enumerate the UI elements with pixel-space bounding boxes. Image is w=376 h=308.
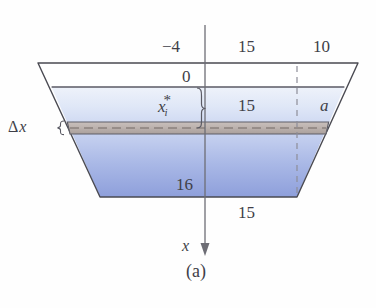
label-top-left-depth: −4 — [162, 38, 180, 55]
delta-symbol: Δ — [8, 118, 18, 135]
label-side-segment-a: a — [320, 97, 329, 114]
figure-caption: (a) — [186, 262, 206, 280]
label-xi-star: xi* — [158, 93, 171, 118]
xi-star-superscript: * — [164, 92, 172, 108]
label-delta-x: Δx — [8, 119, 26, 135]
delta-x-brace — [58, 121, 65, 135]
delta-x-variable: x — [19, 118, 26, 135]
water-region — [52, 87, 345, 197]
label-x-axis: x — [182, 238, 189, 254]
label-water-surface-zero: 0 — [182, 68, 191, 85]
air-region — [38, 63, 358, 87]
label-top-slant: 10 — [313, 38, 330, 55]
label-mid-half-width: 15 — [238, 97, 255, 114]
fluid-pressure-trapezoid-figure: −4 15 10 0 15 a 16 15 x (a) xi* Δx — [0, 0, 376, 308]
label-bottom-half-width: 15 — [238, 204, 255, 221]
label-top-half-width: 15 — [238, 38, 255, 55]
label-bottom-depth: 16 — [176, 176, 193, 193]
